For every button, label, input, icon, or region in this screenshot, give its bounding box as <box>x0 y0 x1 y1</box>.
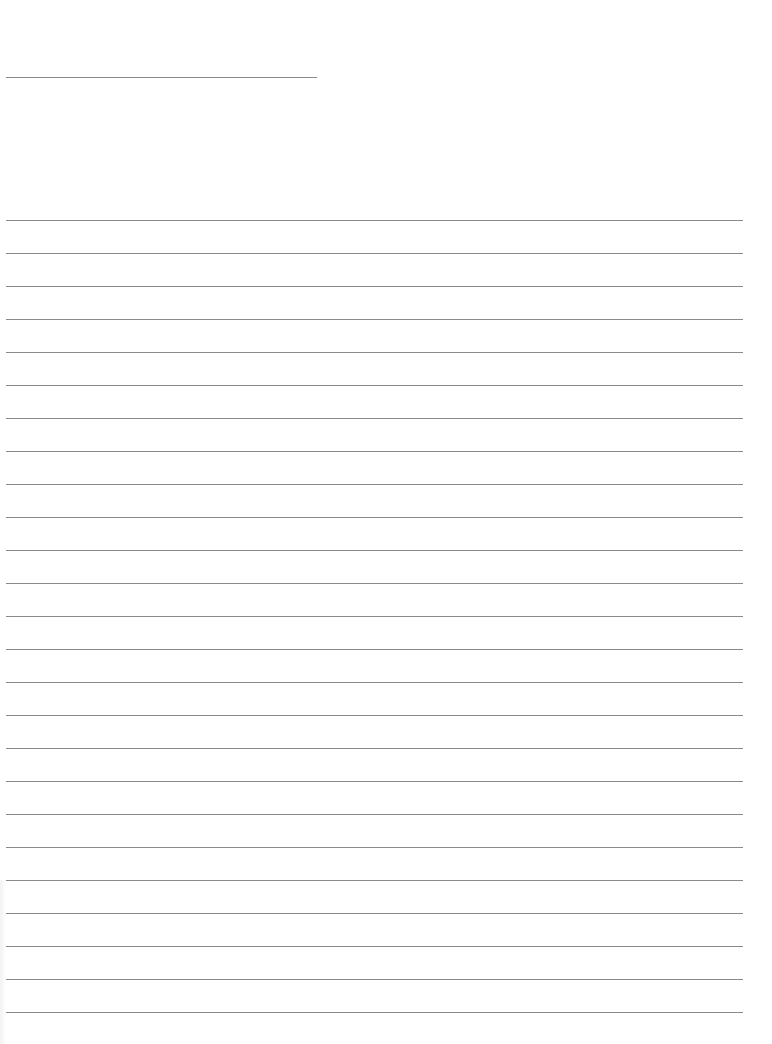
ruled-line <box>6 550 743 551</box>
ruled-line <box>6 319 743 320</box>
ruled-line <box>6 979 743 980</box>
ruled-line <box>6 517 743 518</box>
ruled-line <box>6 781 743 782</box>
ruled-line <box>6 946 743 947</box>
ruled-line <box>6 220 743 221</box>
ruled-line <box>6 451 743 452</box>
lined-paper-page <box>0 0 772 1044</box>
ruled-line <box>6 748 743 749</box>
ruled-line <box>6 286 743 287</box>
ruled-line <box>6 715 743 716</box>
ruled-lines-container <box>0 0 772 1044</box>
ruled-line <box>6 583 743 584</box>
ruled-line <box>6 385 743 386</box>
ruled-line <box>6 1012 743 1013</box>
ruled-line <box>6 484 743 485</box>
ruled-line <box>6 682 743 683</box>
ruled-line <box>6 880 743 881</box>
ruled-line <box>6 814 743 815</box>
ruled-line <box>6 418 743 419</box>
ruled-line <box>6 913 743 914</box>
ruled-line <box>6 616 743 617</box>
page-edge-shadow <box>0 880 6 1044</box>
ruled-line <box>6 649 743 650</box>
ruled-line <box>6 352 743 353</box>
ruled-line <box>6 847 743 848</box>
ruled-line <box>6 253 743 254</box>
